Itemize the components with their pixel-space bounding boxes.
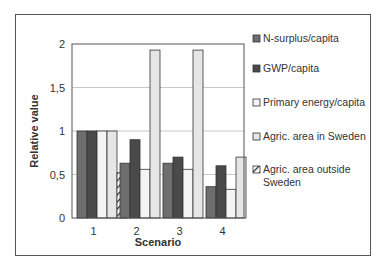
y-tick-label: 1 (59, 125, 65, 137)
legend-label: Agric. area in Sweden (263, 130, 366, 142)
y-tick-label: 0,5 (50, 169, 65, 181)
x-tick-label: 1 (90, 225, 96, 237)
bar-n-surplus-capita (163, 163, 173, 218)
y-axis-label: Relative value (28, 94, 40, 167)
legend-swatch (253, 133, 260, 140)
bar-n-surplus-capita (77, 131, 87, 218)
legend-swatch (253, 166, 260, 173)
bar-gwp-capita (173, 157, 183, 218)
legend-label: Agric. area outside (263, 163, 351, 175)
bar-agric-area-in-sweden (150, 50, 160, 218)
legend-label: Sweden (263, 176, 301, 188)
bar-agric-area-in-sweden (193, 50, 203, 218)
legend: N-surplus/capitaGWP/capitaPrimary energy… (253, 32, 366, 188)
legend-label: GWP/capita (263, 62, 319, 74)
bar-n-surplus-capita (120, 163, 130, 218)
y-tick-label: 0 (59, 212, 65, 224)
legend-swatch (253, 65, 260, 72)
legend-label: N-surplus/capita (263, 32, 339, 44)
bar-primary-energy-capita (226, 189, 236, 218)
bar-n-surplus-capita (206, 187, 216, 218)
bar-gwp-capita (130, 140, 140, 218)
bar-gwp-capita (216, 166, 226, 218)
bar-primary-energy-capita (140, 169, 150, 218)
bar-primary-energy-capita (97, 131, 107, 218)
bar-primary-energy-capita (183, 169, 193, 218)
x-axis-label: Scenario (135, 236, 182, 248)
y-tick-label: 1,5 (50, 82, 65, 94)
bar-gwp-capita (87, 131, 97, 218)
legend-label: Primary energy/capita (263, 96, 365, 108)
bar-chart: 00,511,52 1234 Relative value Scenario N… (0, 0, 384, 268)
y-tick-label: 2 (59, 38, 65, 50)
x-tick-label: 4 (219, 225, 225, 237)
bar-agric-area-in-sweden (107, 131, 117, 218)
legend-swatch (253, 35, 260, 42)
legend-swatch (253, 99, 260, 106)
